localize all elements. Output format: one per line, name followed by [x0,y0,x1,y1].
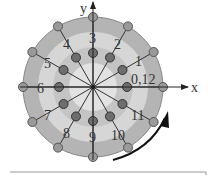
inner-sample-dot [118,100,127,109]
spoke-label: 10 [111,128,125,143]
spoke-label: 6 [37,81,44,96]
spoke-label: 11 [131,108,144,123]
spoke-label: 5 [44,56,51,71]
outer-sample-dot [54,143,63,152]
inner-sample-dot [106,112,115,121]
outer-sample-dot [124,143,133,152]
rotation-arrowhead-icon [160,111,169,128]
inner-sample-dot [72,112,81,121]
y-axis-label: y [80,1,87,16]
outer-sample-dot [28,118,37,127]
inner-sample-dot [72,53,81,62]
spoke-label: 3 [89,31,96,46]
spoke-label: 9 [89,130,96,145]
outer-sample-dot [149,48,158,57]
inner-sample-dot [106,53,115,62]
spoke-label: 1 [135,54,142,69]
spoke-label: 7 [44,108,51,123]
spoke-label: 4 [63,37,70,52]
polar-sampling-diagram: x y 0,121234567891011 [0,0,210,175]
outer-sample-dot [28,48,37,57]
outer-sample-dot [149,118,158,127]
inner-sample-dot [118,66,127,75]
outer-sample-dot [54,22,63,31]
spoke-label: 0,12 [131,72,156,87]
spoke-label: 2 [114,37,121,52]
spoke-label: 8 [63,126,70,141]
outer-sample-dot [124,22,133,31]
inner-sample-dot [59,66,68,75]
x-axis-label: x [191,80,198,95]
inner-sample-dot [59,100,68,109]
